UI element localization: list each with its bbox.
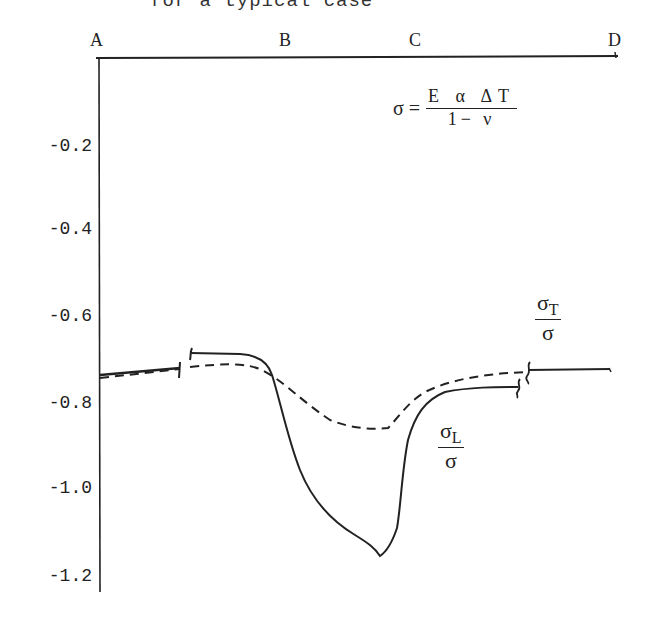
equation-numerator: E α ΔT: [426, 86, 517, 109]
top-axis: [96, 56, 618, 58]
equation-denominator: 1− ν: [448, 109, 496, 130]
stress-equation: σ = E α ΔT 1− ν: [393, 86, 517, 130]
y-axis: [99, 58, 100, 592]
legend-sigma-t: σT σ: [535, 290, 561, 346]
sigma-l-curve: [100, 368, 180, 375]
legend-sigma-l: σL σ: [438, 418, 464, 474]
equation-lhs: σ =: [393, 97, 420, 120]
